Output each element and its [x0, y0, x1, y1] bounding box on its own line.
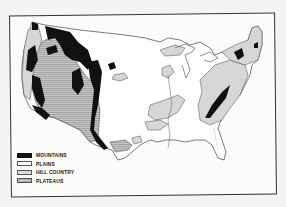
plains-swatch-icon	[17, 161, 32, 166]
legend-label: PLATEAUS	[36, 178, 63, 184]
legend-item-plateaus: PLATEAUS	[17, 177, 74, 186]
plateaus-swatch-icon	[17, 178, 32, 183]
legend-label: HILL COUNTRY	[36, 169, 74, 175]
legend-label: PLAINS	[36, 161, 55, 167]
mountains-swatch-icon	[17, 153, 32, 158]
map-legend: MOUNTAINS PLAINS HILL COUNTRY PLATEAUS	[17, 151, 74, 185]
legend-item-mountains: MOUNTAINS	[17, 151, 74, 160]
legend-item-plains: PLAINS	[17, 160, 74, 169]
hill-country-swatch-icon	[17, 170, 32, 175]
legend-label: MOUNTAINS	[36, 152, 67, 158]
legend-item-hill-country: HILL COUNTRY	[17, 168, 74, 177]
